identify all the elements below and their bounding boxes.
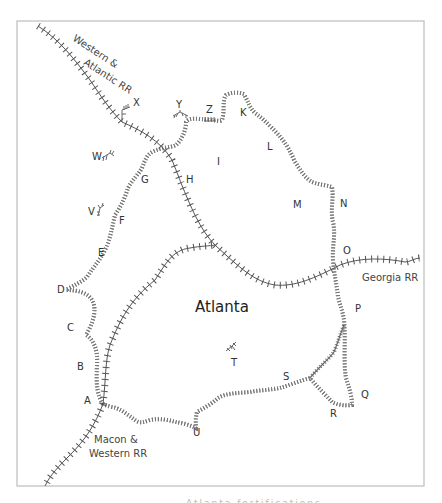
- georgia-rr-label: Georgia RR: [362, 272, 418, 283]
- macon-western-label-line1: Macon &: [94, 434, 138, 445]
- label-r: R: [330, 408, 337, 419]
- label-f: F: [119, 215, 125, 226]
- label-q: Q: [361, 389, 369, 400]
- label-d: D: [57, 284, 65, 295]
- label-s: S: [283, 371, 289, 382]
- label-g: G: [141, 174, 149, 185]
- label-w: W: [92, 151, 102, 162]
- city-label-atlanta: Atlanta: [195, 298, 249, 316]
- label-a: A: [84, 395, 91, 406]
- label-c: C: [67, 322, 74, 333]
- macon-western-label-line2: Western RR: [89, 448, 147, 459]
- atlanta-fortifications-map: .rail-line { fill: none; stroke: #555; s…: [0, 0, 442, 503]
- map-frame: [17, 21, 424, 486]
- label-o: O: [343, 245, 351, 256]
- label-b: B: [77, 361, 84, 372]
- label-m: M: [293, 199, 302, 210]
- map-caption: Atlanta fortifications: [186, 497, 322, 503]
- label-l: L: [267, 141, 273, 152]
- label-p: P: [355, 303, 361, 314]
- label-z: Z: [206, 104, 213, 115]
- label-x: X: [133, 97, 140, 108]
- label-u: U: [193, 427, 200, 438]
- label-y: Y: [175, 99, 183, 110]
- label-t: T: [230, 357, 238, 368]
- label-e: E: [98, 247, 104, 258]
- label-i: I: [217, 156, 220, 167]
- label-h: H: [186, 174, 194, 185]
- label-v: V: [88, 206, 95, 217]
- label-k: K: [240, 107, 247, 118]
- label-n: N: [340, 198, 347, 209]
